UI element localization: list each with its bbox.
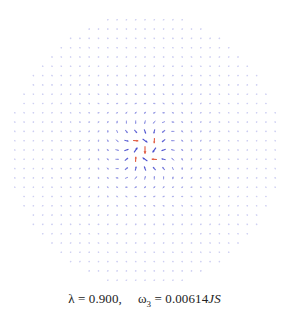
spin-arrow: [143, 158, 148, 161]
spin-arrow: [107, 28, 109, 30]
spin-arrow: [181, 19, 183, 21]
spin-arrow: [107, 233, 109, 235]
spin-arrow: [88, 56, 90, 58]
spin-arrow: [256, 196, 258, 198]
spin-arrow: [172, 196, 174, 198]
spin-arrow: [61, 84, 63, 86]
spin-arrow: [181, 261, 183, 263]
spin-arrow: [153, 138, 155, 143]
spin-arrow: [126, 19, 128, 21]
spin-arrow: [33, 159, 35, 161]
spin-arrow: [256, 186, 258, 188]
spin-arrow: [42, 224, 44, 226]
spin-arrow: [51, 103, 53, 105]
spin-arrow: [209, 66, 211, 68]
spin-arrow: [247, 224, 249, 226]
spin-arrow: [237, 75, 239, 77]
spin-arrow: [51, 168, 53, 170]
spin-arrow: [265, 112, 267, 114]
spin-arrow: [23, 103, 25, 105]
spin-arrow: [191, 140, 193, 142]
spin-arrow: [274, 131, 276, 133]
spin-arrow: [274, 112, 276, 114]
spin-arrow: [209, 121, 211, 123]
spin-arrow: [200, 159, 202, 161]
spin-arrow: [163, 186, 165, 188]
spin-arrow: [154, 47, 156, 49]
spin-arrow: [126, 279, 128, 281]
spin-arrow: [200, 214, 202, 216]
spin-arrow: [191, 121, 193, 123]
spin-arrow: [42, 177, 44, 179]
spin-arrow: [51, 149, 53, 151]
spin-arrow: [79, 140, 81, 142]
spin-arrow: [126, 75, 128, 77]
spin-arrow: [124, 149, 128, 151]
spin-arrow: [256, 159, 258, 161]
spin-arrow: [153, 103, 155, 105]
spin-arrow: [116, 47, 118, 49]
spin-arrow: [154, 270, 156, 272]
spin-arrow: [70, 121, 72, 123]
spin-arrow: [154, 93, 156, 95]
spin-arrow: [98, 252, 100, 254]
spin-arrow: [98, 38, 100, 40]
spin-arrow: [33, 224, 35, 226]
spin-arrow: [70, 242, 72, 244]
spin-arrow: [98, 205, 100, 207]
spin-arrow: [274, 177, 276, 179]
spin-arrow: [144, 279, 146, 281]
spin-arrow: [51, 75, 53, 77]
spin-arrow: [209, 75, 211, 77]
spin-arrow: [124, 140, 128, 142]
spin-arrow: [209, 140, 211, 142]
spin-arrow: [237, 140, 239, 142]
spin-arrow: [219, 93, 221, 95]
spin-arrow: [126, 270, 128, 272]
spin-arrow: [209, 56, 211, 58]
spin-arrow: [125, 103, 127, 105]
spin-arrow: [200, 75, 202, 77]
spin-arrow: [181, 131, 183, 133]
spin-arrow: [172, 84, 174, 86]
spin-arrow: [116, 214, 118, 216]
spin-arrow: [61, 214, 63, 216]
spin-arrow: [181, 158, 183, 161]
spin-arrow: [116, 177, 119, 179]
spin-arrow: [116, 19, 118, 21]
spin-arrow: [98, 233, 100, 235]
spin-arrow: [200, 270, 202, 272]
spin-arrow: [42, 214, 44, 216]
spin-arrow: [144, 214, 146, 216]
spin-arrow: [98, 242, 100, 244]
spin-arrow: [116, 140, 119, 142]
spin-arrow: [88, 214, 90, 216]
spin-arrow: [107, 84, 109, 86]
spin-arrow: [42, 66, 44, 68]
spin-arrow: [163, 261, 165, 263]
spin-arrow: [107, 66, 109, 68]
spin-arrow: [61, 103, 63, 105]
spin-arrow: [88, 186, 90, 188]
spin-arrow: [237, 149, 239, 151]
spin-arrow: [200, 149, 202, 151]
spin-arrow: [163, 270, 165, 272]
spin-arrow: [228, 93, 230, 95]
spin-arrow: [98, 224, 100, 226]
spin-arrow: [61, 242, 63, 244]
spin-arrow: [88, 38, 90, 40]
spin-arrow: [61, 112, 63, 114]
spin-arrow: [70, 205, 72, 207]
spin-arrow: [154, 242, 156, 244]
spin-arrow: [107, 75, 109, 77]
spin-arrow: [219, 224, 221, 226]
spin-arrow: [256, 93, 258, 95]
spin-arrow: [237, 168, 239, 170]
spin-arrow: [154, 38, 156, 40]
spin-arrow: [51, 214, 53, 216]
spin-arrow: [135, 270, 137, 272]
spin-arrow: [172, 205, 174, 207]
spin-arrow: [163, 66, 165, 68]
spin-arrow: [126, 112, 128, 114]
spin-arrow: [172, 214, 174, 216]
